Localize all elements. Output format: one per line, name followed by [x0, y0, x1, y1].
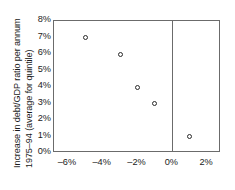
plot-area: [53, 20, 220, 152]
data-point-marker: [152, 101, 157, 106]
scatter-chart-figure: Increase in debt/GDP ratio per annum 197…: [0, 0, 235, 190]
data-point-marker: [118, 52, 123, 57]
x-axis-tick-label: –6%: [58, 158, 76, 167]
data-point-marker: [135, 85, 140, 90]
data-point-marker: [83, 35, 88, 40]
data-point-marker: [187, 134, 192, 139]
x-axis-tick-label: 0%: [165, 158, 178, 167]
x-axis-tick-label: –2%: [127, 158, 145, 167]
x-axis-tick-label: –4%: [93, 158, 111, 167]
zero-reference-line: [172, 21, 173, 151]
x-axis-tick-label: 2%: [199, 158, 212, 167]
